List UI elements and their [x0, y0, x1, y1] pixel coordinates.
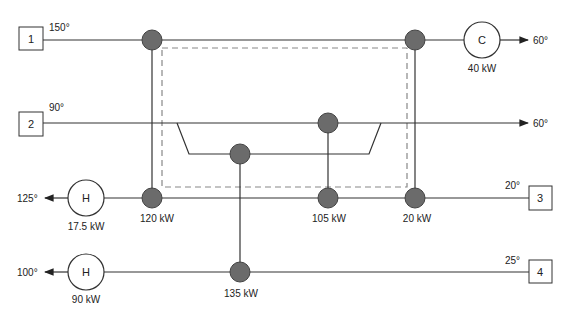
- exchanger-node-120-cold[interactable]: [142, 188, 162, 208]
- exchanger-node-135-hot[interactable]: [230, 144, 250, 164]
- heater-duty: 17.5 kW: [68, 221, 105, 232]
- stream-4-outlet-temp: 100°: [17, 267, 38, 278]
- stream-2-split-branch: [177, 123, 381, 154]
- stream-3-id: 3: [537, 192, 543, 204]
- stream-4-id: 4: [537, 266, 543, 278]
- heater-symbol: H: [82, 192, 90, 204]
- cooler-symbol: C: [478, 34, 486, 46]
- stream-1-inlet-temp: 150°: [49, 22, 70, 33]
- heater-utility-stream-4[interactable]: H 90 kW: [68, 254, 104, 305]
- heater-symbol: H: [82, 266, 90, 278]
- exchanger-duty-120: 120 kW: [140, 213, 174, 224]
- exchanger-duty-135: 135 kW: [224, 288, 258, 299]
- stream-1-id: 1: [28, 33, 34, 45]
- exchanger-node-20-cold[interactable]: [405, 188, 425, 208]
- exchanger-node-105-hot[interactable]: [318, 113, 338, 133]
- stream-1-outlet-temp: 60°: [533, 35, 548, 46]
- exchanger-node-105-cold[interactable]: [318, 188, 338, 208]
- stream-2-id: 2: [28, 118, 34, 130]
- stream-2-inlet-temp: 90°: [49, 102, 64, 113]
- heater-utility-stream-3[interactable]: H 17.5 kW: [68, 180, 105, 232]
- exchanger-node-135-cold[interactable]: [230, 262, 250, 282]
- cooler-duty: 40 kW: [468, 63, 497, 74]
- dashed-loop-box: [162, 48, 407, 187]
- heat-exchanger-network: 1 150° 60° 2 90° 60° 3 20° 125° 4 25° 10…: [0, 0, 569, 320]
- stream-3-outlet-temp: 125°: [17, 193, 38, 204]
- stream-2: 2 90° 60°: [19, 102, 548, 154]
- heater-duty: 90 kW: [72, 294, 101, 305]
- exchanger-node-20-hot[interactable]: [405, 30, 425, 50]
- stream-3-inlet-temp: 20°: [505, 180, 520, 191]
- exchanger-node-120-hot[interactable]: [142, 30, 162, 50]
- exchanger-duty-105: 105 kW: [312, 213, 346, 224]
- stream-2-outlet-temp: 60°: [533, 118, 548, 129]
- exchanger-duty-20: 20 kW: [403, 213, 432, 224]
- cooler-utility[interactable]: C 40 kW: [464, 22, 500, 74]
- stream-4-inlet-temp: 25°: [505, 255, 520, 266]
